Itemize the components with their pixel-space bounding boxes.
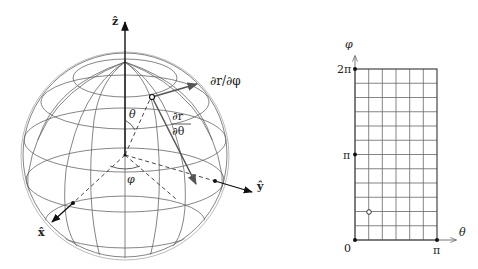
dr-dtheta-denominator: ∂θ <box>172 125 185 138</box>
tick-zero: 0 <box>344 242 351 255</box>
point-theta-pi <box>435 238 439 242</box>
dr-dtheta-numerator: ∂r <box>172 110 184 123</box>
origin-point <box>124 154 127 157</box>
phi-label: φ <box>127 173 135 186</box>
y-axis-point <box>213 179 217 183</box>
point-origin <box>353 238 357 242</box>
dr-dphi-label: ∂r/∂φ <box>210 74 241 88</box>
phi-axis-label: φ <box>345 38 353 51</box>
x-axis-point <box>71 201 75 205</box>
dashed-y-radius <box>125 155 215 181</box>
dashed-radii <box>73 97 215 203</box>
diagram-canvas: ẑ x̂ ŷ θ φ ∂r/∂φ ∂r ∂θ <box>0 0 478 269</box>
grid-lines <box>355 69 437 240</box>
dashed-r-vector <box>125 97 151 155</box>
theta-axis-label: θ <box>459 226 466 239</box>
point-pi <box>353 153 357 157</box>
tick-theta-pi: π <box>433 244 440 257</box>
y-axis-label: ŷ <box>256 180 264 193</box>
parameter-grid-plot: φ θ 2π π 0 π <box>337 38 466 257</box>
tick-2pi: 2π <box>337 63 351 76</box>
z-axis-label: ẑ <box>112 15 118 28</box>
dr-dphi-vector <box>152 84 197 97</box>
x-axis-label: x̂ <box>38 226 45 239</box>
theta-label: θ <box>129 108 136 121</box>
sphere: ẑ x̂ ŷ θ φ ∂r/∂φ ∂r ∂θ <box>21 15 264 260</box>
highlight-point <box>367 210 372 215</box>
point-2pi <box>353 67 357 71</box>
tick-pi: π <box>343 149 350 162</box>
surface-point <box>150 95 155 100</box>
